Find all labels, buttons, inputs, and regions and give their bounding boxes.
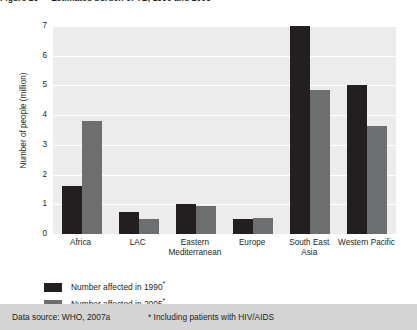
x-axis-tick-label: EasternMediterranean <box>166 238 223 257</box>
y-axis-tick-label: 3 <box>30 141 47 149</box>
bar-2005 <box>367 126 387 234</box>
bar-2005 <box>196 206 216 234</box>
y-axis-tick-label: 1 <box>30 200 47 208</box>
bar-group <box>53 26 110 234</box>
plot-area <box>52 26 396 234</box>
footnote-text: * Including patients with HIV/AIDS <box>148 312 274 322</box>
y-axis-tick-label: 2 <box>30 171 47 179</box>
bar-series-layer <box>53 26 396 234</box>
legend-item[interactable]: Number affected in 1990* <box>44 280 165 294</box>
legend-swatch <box>44 283 62 292</box>
y-axis-title: Number of people (million) <box>19 36 28 206</box>
footer-band: Data source: WHO, 2007a * Including pati… <box>0 304 417 330</box>
bar-2005 <box>310 90 330 234</box>
bar-1990 <box>290 26 310 234</box>
figure-caption: Figure 13Estimated burden of TB, 1990 an… <box>0 0 417 7</box>
bar-2005 <box>82 121 102 234</box>
bar-1990 <box>62 186 82 234</box>
x-axis-tick-labels: AfricaLACEasternMediterraneanEuropeSouth… <box>52 238 395 257</box>
bar-group <box>282 26 339 234</box>
x-axis-tick-label: South EastAsia <box>281 238 338 257</box>
data-source-text: Data source: WHO, 2007a <box>12 312 110 322</box>
bar-2005 <box>139 219 159 234</box>
figure-caption-number: Figure 13 <box>0 0 38 3</box>
bar-group <box>339 26 396 234</box>
bar-1990 <box>233 219 253 234</box>
bar-group <box>167 26 224 234</box>
bar-1990 <box>119 212 139 234</box>
x-axis-tick-label: LAC <box>109 238 166 257</box>
x-axis-tick-label: Europe <box>224 238 281 257</box>
x-axis-tick-label: Africa <box>52 238 109 257</box>
y-axis-tick-labels: 01234567 <box>30 26 47 234</box>
bar-group <box>225 26 282 234</box>
figure-caption-title: Estimated burden of TB, 1990 and 2005 <box>51 0 211 3</box>
bar-group <box>110 26 167 234</box>
bar-chart: Number of people (million) 01234567 Afri… <box>0 8 417 304</box>
y-axis-tick-label: 0 <box>30 230 47 238</box>
y-axis-tick-label: 7 <box>30 22 47 30</box>
y-axis-tick-label: 5 <box>30 81 47 89</box>
legend-label: Number affected in 1990* <box>71 282 165 292</box>
bar-1990 <box>347 85 367 234</box>
x-axis-tick-label: Western Pacific <box>338 238 395 257</box>
y-axis-tick-label: 4 <box>30 111 47 119</box>
y-axis-tick-label: 6 <box>30 52 47 60</box>
bar-2005 <box>253 218 273 234</box>
bar-1990 <box>176 204 196 234</box>
